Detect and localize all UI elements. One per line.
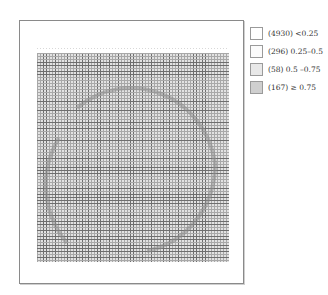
top-dotted-row	[37, 48, 229, 49]
legend-item: (58) 0.5 –0.75	[250, 60, 323, 78]
legend-item: (4930) <0.25	[250, 24, 323, 42]
legend-item: (296) 0.25–0.5	[250, 42, 323, 60]
legend-swatch	[250, 81, 263, 94]
legend-swatch	[250, 63, 263, 76]
legend-label: (167) ≥ 0.75	[268, 83, 316, 92]
grid-lines	[37, 53, 229, 262]
legend-label: (296) 0.25–0.5	[268, 47, 323, 56]
heatmap-grid	[37, 53, 229, 262]
legend: (4930) <0.25 (296) 0.25–0.5 (58) 0.5 –0.…	[250, 24, 323, 96]
legend-item: (167) ≥ 0.75	[250, 78, 323, 96]
legend-swatch	[250, 27, 263, 40]
legend-label: (58) 0.5 –0.75	[268, 65, 321, 74]
legend-label: (4930) <0.25	[268, 29, 318, 38]
legend-swatch	[250, 45, 263, 58]
